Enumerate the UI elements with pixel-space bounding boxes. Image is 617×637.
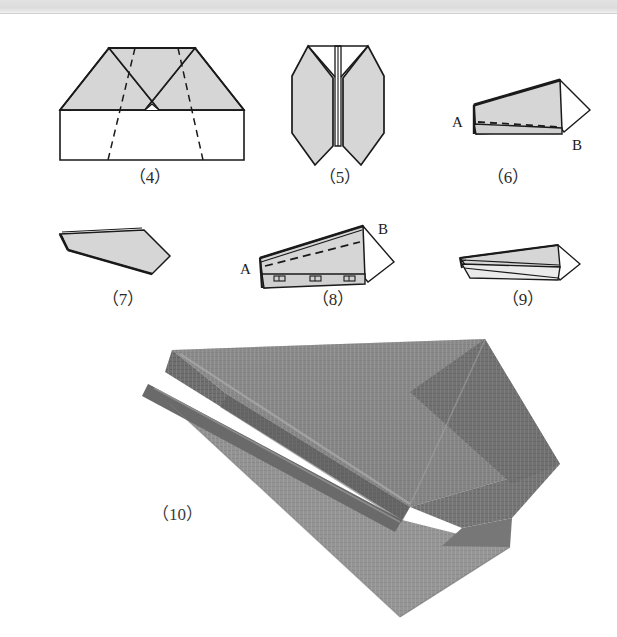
caption-step-4: （4）	[105, 163, 195, 188]
caption-step-7: （7）	[78, 285, 168, 310]
step8-label-a: A	[240, 261, 251, 277]
step4-lower-rect	[60, 110, 244, 160]
step9-lower-wing	[462, 264, 560, 280]
figure-step-10-photo	[110, 332, 610, 632]
caption-step-8: （8）	[288, 285, 378, 310]
instruction-page: （4） （5）	[0, 0, 617, 637]
step5-left-wing	[292, 46, 333, 165]
caption-step-9: （9）	[478, 285, 568, 310]
figure-step-7	[42, 222, 192, 292]
figure-step-5	[278, 36, 398, 171]
caption-step-6: （6）	[463, 163, 553, 188]
step8-label-b: B	[378, 221, 388, 237]
figure-step-6: A B	[442, 58, 607, 168]
figure-step-4	[52, 38, 252, 168]
step6-label-b: B	[572, 137, 582, 153]
step6-label-a: A	[452, 114, 463, 130]
scan-edge-band	[0, 0, 617, 14]
caption-step-10: （10）	[152, 500, 203, 525]
caption-step-5: （5）	[295, 163, 385, 188]
step5-right-wing	[343, 46, 384, 165]
